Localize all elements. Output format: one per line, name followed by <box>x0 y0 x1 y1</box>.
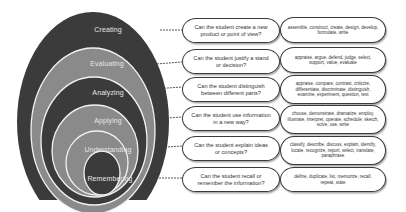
label-analyzing: Analyzing <box>92 89 123 96</box>
ring-remembering <box>84 151 120 195</box>
label-remembering: Remembering <box>87 175 132 182</box>
verbs-creating: assemble, construct, create, design, dev… <box>280 17 386 43</box>
label-understanding: Understanding <box>85 146 132 153</box>
verbs-understanding: classify, describe, discuss, explain, id… <box>280 136 386 165</box>
verbs-remembering: define, duplicate, list, memorize, recal… <box>280 167 386 192</box>
question-remembering: Can the student recall or remember the i… <box>182 167 280 192</box>
question-analyzing: Can the student distinguish between diff… <box>182 77 280 102</box>
question-applying: Can the student use information in a new… <box>182 106 280 131</box>
label-applying: Applying <box>94 117 122 124</box>
question-evaluating: Can the student justify a stand or decis… <box>182 49 280 74</box>
question-creating: Can the student create a new product or … <box>182 18 280 43</box>
question-understanding: Can the student explain ideas or concept… <box>182 136 280 161</box>
blooms-taxonomy-diagram: Creating Evaluating Analyzing Applying U… <box>0 0 406 212</box>
verbs-analyzing: appraise, compare, contrast, criticize, … <box>280 75 386 104</box>
label-evaluating: Evaluating <box>90 60 124 67</box>
verbs-applying: choose, demonstrate, dramatize, employ, … <box>280 105 386 134</box>
verbs-evaluating: appraise, argue, defend, judge, select, … <box>280 47 386 73</box>
label-creating: Creating <box>94 26 121 33</box>
